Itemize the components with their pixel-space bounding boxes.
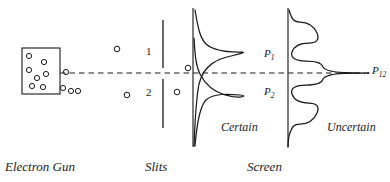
electron-dots-inside-gun: [26, 53, 48, 89]
stage-label-electron-gun: Electron Gun: [5, 159, 75, 175]
p1-subscript: 1: [271, 53, 275, 62]
double-slit-diagram: 1 2 P1 P2 P12 Certain Uncertain Electron…: [0, 0, 390, 182]
electron-dots-past-slits: [174, 65, 191, 95]
p2-symbol: P: [264, 85, 271, 97]
stage-label-screen: Screen: [247, 159, 282, 175]
probability-label-p12: P12: [372, 64, 386, 79]
slit-number-lower: 2: [146, 86, 152, 98]
region-label-certain: Certain: [221, 120, 258, 135]
p12-curve-endpoint: [367, 72, 369, 74]
probability-label-p2: P2: [264, 85, 274, 100]
stage-label-slits: Slits: [145, 159, 167, 175]
slit-number-upper: 1: [146, 45, 152, 57]
p1-symbol: P: [264, 47, 271, 59]
electron-dots-in-flight: [114, 46, 130, 98]
p12-symbol: P: [372, 64, 379, 76]
diagram-canvas: [0, 0, 390, 182]
p12-subscript: 12: [379, 70, 387, 79]
p2-subscript: 2: [271, 91, 275, 100]
electron-gun-box: [22, 48, 60, 94]
region-label-uncertain: Uncertain: [327, 120, 376, 135]
probability-label-p1: P1: [264, 47, 274, 62]
